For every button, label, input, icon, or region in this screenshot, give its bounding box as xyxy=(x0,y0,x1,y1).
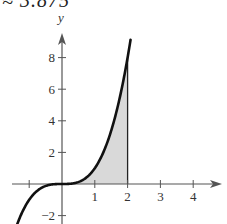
shaded-area-region xyxy=(62,58,128,184)
x-tick-label: 2 xyxy=(124,189,131,204)
y-tick-label: 8 xyxy=(49,50,56,65)
y-tick-label: 2 xyxy=(49,145,56,160)
x-tick-label: 1 xyxy=(92,189,99,204)
y-tick-label: 6 xyxy=(49,82,56,97)
x-tick-label: 3 xyxy=(157,189,164,204)
y-tick-label: −2 xyxy=(41,208,55,223)
x-tick-label: 4 xyxy=(190,189,197,204)
y-axis-label: y xyxy=(56,10,64,25)
y-tick-label: 4 xyxy=(49,113,56,128)
shaded-area xyxy=(62,58,128,184)
function-graph: 1234−22468 y xyxy=(0,0,227,224)
